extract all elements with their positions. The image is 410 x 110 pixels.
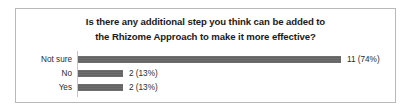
chart-title-line-2: the Rhizome Approach to make it more eff… — [16, 29, 395, 44]
plot-area: Not sure 11 (74%) No 2 (13%) Yes 2 (13%) — [16, 50, 396, 103]
value-label-yes: 2 (13%) — [129, 83, 158, 93]
bar-no — [78, 70, 123, 77]
category-label-no: No — [16, 69, 72, 79]
category-label-not-sure: Not sure — [16, 55, 72, 65]
bar-not-sure — [78, 56, 341, 63]
chart-title-line-1: Is there any additional step you think c… — [16, 14, 395, 29]
value-label-not-sure: 11 (74%) — [347, 55, 380, 65]
bar-row: Not sure 11 (74%) — [16, 53, 396, 67]
bar-track: 2 (13%) — [78, 67, 396, 81]
bar-row: Yes 2 (13%) — [16, 81, 396, 95]
bar-track: 11 (74%) — [78, 53, 396, 67]
chart-title: Is there any additional step you think c… — [16, 14, 395, 44]
bar-yes — [78, 84, 123, 91]
value-label-no: 2 (13%) — [129, 69, 158, 79]
category-label-yes: Yes — [16, 83, 72, 93]
chart-container: Is there any additional step you think c… — [15, 8, 396, 103]
bar-track: 2 (13%) — [78, 81, 396, 95]
bar-row: No 2 (13%) — [16, 67, 396, 81]
